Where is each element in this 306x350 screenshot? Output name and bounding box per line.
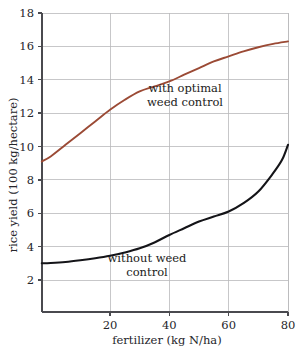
x-tick-label-20: 20 (103, 318, 118, 332)
y-tick-label-12: 12 (19, 106, 34, 120)
y-tick-label-14: 14 (19, 73, 34, 87)
chart-figure: 24681012141618 20406080 with optimalweed… (0, 0, 306, 350)
x-tick-label-80: 80 (281, 318, 296, 332)
y-axis-title: rice yield (100 kg/hectare) (6, 98, 20, 253)
y-tick-label-10: 10 (19, 140, 34, 154)
y-tick-label-4: 4 (27, 240, 34, 254)
x-axis-title: fertilizer (kg N/ha) (112, 333, 221, 347)
y-tick-label-16: 16 (19, 39, 34, 53)
series-line-without-weed-control (42, 145, 288, 263)
y-tick-label-8: 8 (27, 173, 34, 187)
lower-annotation-line-1: without weed (108, 251, 188, 265)
y-axis-tick-labels: 24681012141618 (19, 6, 34, 287)
upper-annotation-line-1: with optimal (148, 81, 222, 95)
y-tick-label-6: 6 (27, 206, 34, 220)
x-tick-label-60: 60 (221, 318, 236, 332)
lower-annotation-line-2: control (126, 265, 168, 279)
data-series-group (42, 41, 288, 263)
horizontal-gridlines (42, 13, 288, 280)
upper-annotation-line-2: weed control (147, 95, 223, 109)
chart-canvas: 24681012141618 20406080 with optimalweed… (0, 0, 306, 350)
y-tick-label-2: 2 (27, 273, 34, 287)
y-tick-label-18: 18 (19, 6, 34, 20)
x-axis-tick-labels: 20406080 (103, 318, 296, 332)
x-tick-label-40: 40 (162, 318, 177, 332)
